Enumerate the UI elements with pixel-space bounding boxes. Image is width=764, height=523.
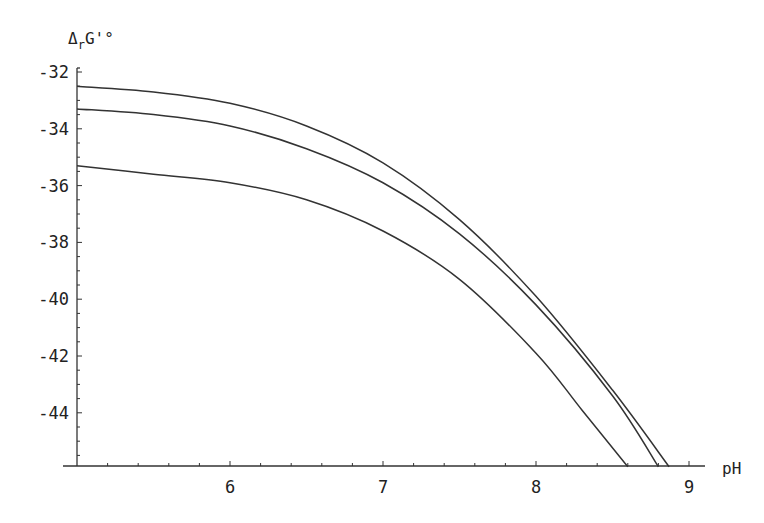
- curve-bottom-line: [77, 166, 628, 467]
- axes: 6789-32-34-36-38-40-42-44: [38, 62, 705, 497]
- y-tick-label: -36: [38, 176, 69, 196]
- x-tick-label: 9: [684, 477, 694, 497]
- series-group: [77, 86, 669, 467]
- y-tick-label: -42: [38, 346, 69, 366]
- curve-middle-line: [77, 109, 658, 467]
- x-tick-label: 6: [225, 477, 235, 497]
- curve-top-line: [77, 86, 669, 467]
- x-tick-label: 7: [378, 477, 388, 497]
- y-tick-label: -44: [38, 403, 69, 423]
- y-axis-label: ΔrG'°: [68, 29, 114, 52]
- x-tick-label: 8: [531, 477, 541, 497]
- y-tick-label: -32: [38, 62, 69, 82]
- y-tick-label: -38: [38, 232, 69, 252]
- y-tick-label: -40: [38, 289, 69, 309]
- line-chart: 6789-32-34-36-38-40-42-44 ΔrG'° pH: [0, 0, 764, 523]
- y-tick-label: -34: [38, 119, 69, 139]
- x-axis-label: pH: [722, 459, 741, 478]
